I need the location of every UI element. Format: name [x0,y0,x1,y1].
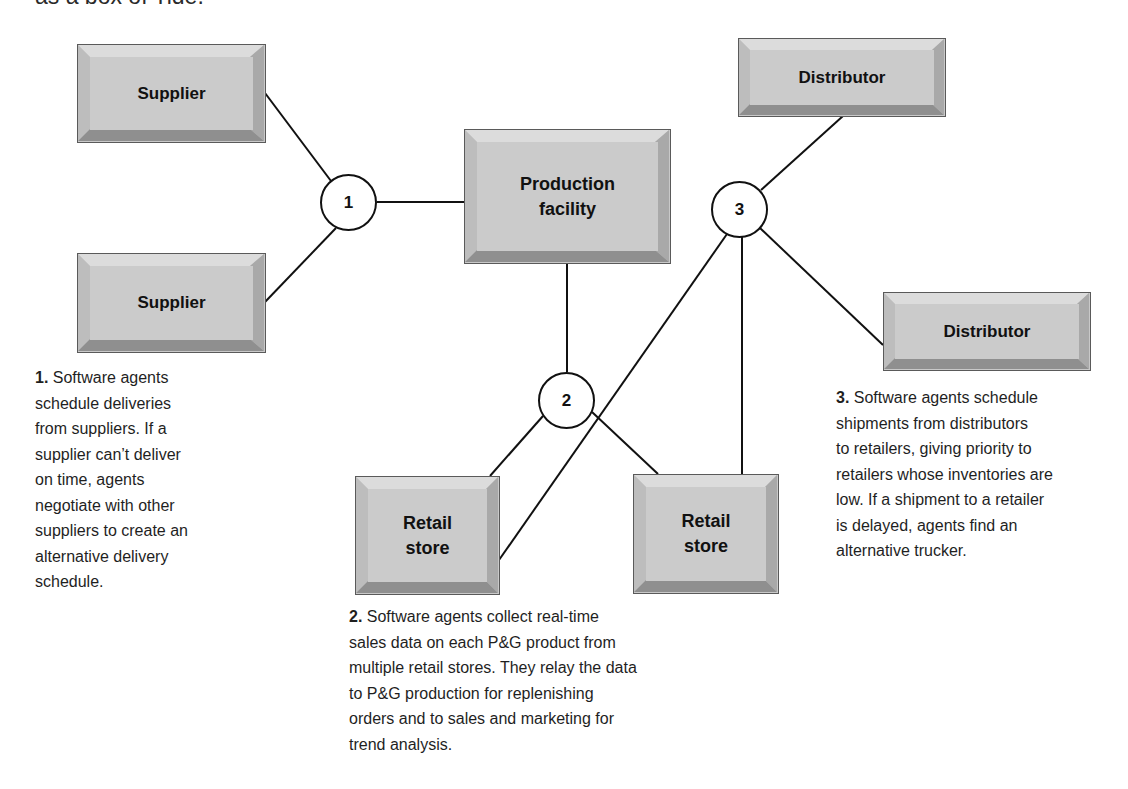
desc3-line: retailers whose inventories are [836,462,1053,488]
description-step-2: 2. Software agents collect real-time sal… [349,604,637,757]
supplier-box-bottom: Supplier [77,253,266,353]
link-c3-distributor-right [760,228,883,345]
step-circle-1: 1 [320,174,377,231]
distributor-top-label: Distributor [799,67,886,89]
supply-chain-diagram: as a box of Tide. [0,0,1128,789]
link-supplier-bottom-c1 [265,228,336,302]
distributor-box-top: Distributor [738,38,946,117]
desc3-line: alternative trucker. [836,538,1053,564]
production-label-line2: facility [520,197,615,222]
desc1-number: 1. [35,369,48,386]
desc2-number: 2. [349,608,362,625]
step-circle-2: 2 [538,372,595,429]
desc1-line: from suppliers. If a [35,416,188,442]
desc3-line: shipments from distributors [836,411,1053,437]
production-label-line1: Production [520,172,615,197]
desc2-line: sales data on each P&G product from [349,630,637,656]
desc2-line: multiple retail stores. They relay the d… [349,655,637,681]
supplier-top-label: Supplier [137,83,205,105]
step-3-number: 3 [735,200,744,220]
desc1-line: supplier can’t deliver [35,442,188,468]
description-step-3: 3. Software agents schedule shipments fr… [836,385,1053,564]
desc2-line: trend analysis. [349,732,637,758]
retail-right-label-line1: Retail [681,509,730,534]
desc3-line: to retailers, giving priority to [836,436,1053,462]
desc2-line: Software agents collect real-time [362,608,599,625]
step-2-number: 2 [562,391,571,411]
desc1-line: negotiate with other [35,493,188,519]
cut-off-caption: as a box of Tide. [35,0,204,10]
desc1-line: schedule deliveries [35,391,188,417]
desc1-line: suppliers to create an [35,518,188,544]
desc1-line: schedule. [35,569,188,595]
desc1-line: alternative delivery [35,544,188,570]
desc3-line: low. If a shipment to a retailer [836,487,1053,513]
step-1-number: 1 [344,193,353,213]
desc2-line: orders and to sales and marketing for [349,706,637,732]
desc1-line: Software agents [48,369,168,386]
supplier-bottom-label: Supplier [137,292,205,314]
retail-left-label-line2: store [403,536,452,561]
production-facility-box: Production facility [464,129,671,264]
distributor-right-label: Distributor [944,321,1031,343]
description-step-1: 1. Software agents schedule deliveries f… [35,365,188,595]
link-c2-retail-right [592,412,658,474]
retail-store-box-right: Retail store [633,474,779,594]
supplier-box-top: Supplier [77,44,266,143]
step-circle-3: 3 [711,181,768,238]
desc1-line: on time, agents [35,467,188,493]
link-supplier-top-c1 [265,93,331,181]
retail-left-label-line1: Retail [403,511,452,536]
link-c2-retail-left [490,416,543,476]
retail-store-box-left: Retail store [355,476,500,595]
distributor-box-right: Distributor [883,292,1091,371]
desc3-line: Software agents schedule [849,389,1038,406]
desc3-number: 3. [836,389,849,406]
desc2-line: to P&G production for replenishing [349,681,637,707]
link-c3-distributor-top [761,116,843,190]
desc3-line: is delayed, agents find an [836,513,1053,539]
retail-right-label-line2: store [681,534,730,559]
